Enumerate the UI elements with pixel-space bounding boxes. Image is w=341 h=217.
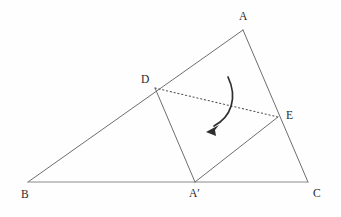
segment-crease-d-to-e (155, 88, 278, 117)
geometry-figure: A B C D E A′ (0, 0, 341, 217)
segment-d-to-aprime (155, 88, 195, 182)
vertex-label-a-prime: A′ (189, 188, 200, 200)
vertex-label-b: B (21, 189, 29, 201)
vertex-label-a: A (239, 11, 247, 23)
rotation-arrow-arc (214, 77, 233, 126)
rotation-arrow-head (206, 125, 219, 136)
vertex-label-c: C (313, 188, 321, 200)
vertex-label-e: E (286, 110, 293, 122)
segment-aprime-to-e (195, 117, 278, 182)
segment-a-to-c (243, 30, 308, 182)
segment-b-to-a (28, 30, 243, 182)
vertex-label-d: D (141, 74, 149, 86)
